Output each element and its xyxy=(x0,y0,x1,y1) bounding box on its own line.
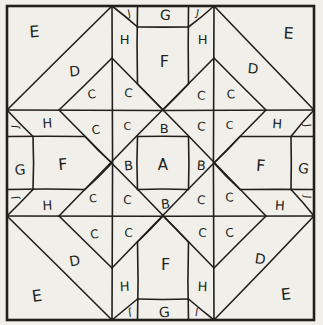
piece-label-J: J xyxy=(194,7,200,19)
piece-label-D: D xyxy=(68,252,81,270)
piece-labels: EEEEDDDDCCCCCCCCCCCCCCCCBBBBAFFFFGGGGHHH… xyxy=(9,6,313,320)
piece-label-C: C xyxy=(225,190,234,204)
piece-label-C: C xyxy=(226,87,235,102)
piece-label-C: C xyxy=(91,122,101,137)
piece-label-C: C xyxy=(196,119,206,134)
piece-label-C: C xyxy=(89,227,99,242)
piece-label-H: H xyxy=(198,32,208,47)
seam-line xyxy=(33,137,34,190)
piece-label-H: H xyxy=(197,279,207,294)
piece-label-E: E xyxy=(283,23,294,43)
piece-label-H: H xyxy=(119,279,130,294)
seam-line xyxy=(188,242,189,320)
piece-label-H: H xyxy=(42,198,53,213)
piece-label-C: C xyxy=(123,120,131,133)
seam-line xyxy=(214,137,240,164)
piece-label-C: C xyxy=(87,87,97,102)
diagram-svg: EEEEDDDDCCCCCCCCCCCCCCCCBBBBAFFFFGGGGHHH… xyxy=(0,0,323,325)
piece-label-J: J xyxy=(9,124,20,129)
piece-label-J: J xyxy=(302,194,313,199)
piece-label-C: C xyxy=(196,88,206,103)
seam-line xyxy=(138,242,139,320)
seam-line xyxy=(7,190,33,217)
piece-label-G: G xyxy=(159,6,171,23)
seam-line xyxy=(291,190,314,217)
seam-line xyxy=(137,137,138,190)
piece-label-H: H xyxy=(274,198,285,213)
piece-label-B: B xyxy=(160,196,170,212)
seam-line xyxy=(112,6,138,27)
piece-label-C: C xyxy=(123,193,132,207)
seam-line xyxy=(85,163,112,190)
seam-line xyxy=(163,84,189,110)
piece-label-F: F xyxy=(161,255,170,274)
piece-label-F: F xyxy=(160,52,169,71)
piece-label-B: B xyxy=(123,158,133,174)
piece-label-C: C xyxy=(198,226,208,241)
piece-label-J: J xyxy=(302,122,313,127)
piece-label-F: F xyxy=(57,154,68,174)
piece-label-H: H xyxy=(272,116,283,132)
piece-label-J: J xyxy=(194,307,199,318)
seam-line xyxy=(85,137,112,164)
seam-line xyxy=(189,6,215,27)
piece-label-J: J xyxy=(9,195,20,200)
seam-line xyxy=(138,84,164,110)
piece-label-G: G xyxy=(297,160,310,177)
seam-line xyxy=(214,163,240,190)
seam-line xyxy=(7,6,112,110)
piece-label-E: E xyxy=(280,284,292,304)
piece-label-C: C xyxy=(226,119,234,132)
seam-line xyxy=(7,110,33,137)
quilt-pattern-page: EEEEDDDDCCCCCCCCCCCCCCCCBBBBAFFFFGGGGHHH… xyxy=(0,0,323,325)
piece-label-E: E xyxy=(29,22,40,42)
piece-label-A: A xyxy=(158,156,169,174)
seam-line xyxy=(138,189,189,190)
piece-label-C: C xyxy=(197,193,206,208)
piece-label-G: G xyxy=(14,161,26,178)
seam-line xyxy=(189,299,215,320)
piece-label-B: B xyxy=(160,121,169,136)
piece-label-D: D xyxy=(247,60,259,77)
piece-label-G: G xyxy=(158,304,170,321)
seam-line xyxy=(138,216,164,242)
piece-label-F: F xyxy=(256,156,267,176)
piece-label-C: C xyxy=(225,226,235,241)
seam-line xyxy=(59,58,112,110)
seam-line xyxy=(112,299,138,320)
piece-label-H: H xyxy=(42,115,53,131)
seam-line xyxy=(163,216,189,242)
piece-label-E: E xyxy=(31,286,44,306)
piece-label-J: J xyxy=(128,307,133,318)
piece-label-B: B xyxy=(196,158,206,174)
seam-line xyxy=(59,216,112,268)
piece-label-C: C xyxy=(124,86,133,101)
piece-label-C: C xyxy=(89,192,98,206)
piece-label-C: C xyxy=(124,226,133,240)
piece-label-D: D xyxy=(69,63,81,80)
piece-label-H: H xyxy=(120,32,130,47)
piece-label-D: D xyxy=(254,250,267,267)
